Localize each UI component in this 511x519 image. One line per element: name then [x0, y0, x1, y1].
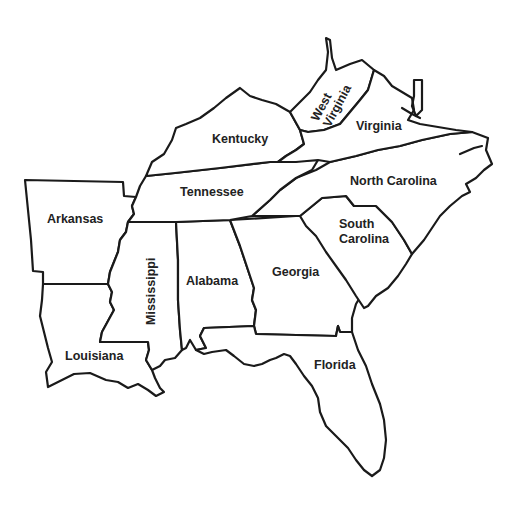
- label-mississippi: Mississippi: [144, 258, 158, 325]
- southeast-us-map: West Virginia Virginia Kentucky Tennesse…: [0, 0, 511, 519]
- label-virginia: Virginia: [356, 119, 403, 133]
- label-south-carolina-line2: Carolina: [339, 232, 390, 246]
- label-kentucky: Kentucky: [212, 132, 268, 146]
- label-georgia: Georgia: [272, 265, 320, 279]
- label-alabama: Alabama: [186, 274, 239, 288]
- label-north-carolina: North Carolina: [350, 174, 438, 188]
- label-arkansas: Arkansas: [47, 212, 103, 226]
- label-louisiana: Louisiana: [65, 349, 124, 363]
- label-florida: Florida: [314, 358, 357, 372]
- map-svg: West Virginia Virginia Kentucky Tennesse…: [0, 0, 511, 519]
- state-florida[interactable]: [196, 326, 386, 476]
- label-tennessee: Tennessee: [180, 185, 244, 199]
- delmarva-peninsula-outline: [412, 80, 422, 116]
- label-south-carolina-line1: South: [339, 217, 374, 231]
